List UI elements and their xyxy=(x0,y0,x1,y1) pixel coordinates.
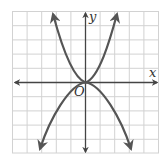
y-axis-label: y xyxy=(88,9,97,24)
origin-label: O xyxy=(74,84,85,99)
x-axis-label: x xyxy=(149,65,157,80)
coordinate-graph: x y O xyxy=(0,0,166,157)
